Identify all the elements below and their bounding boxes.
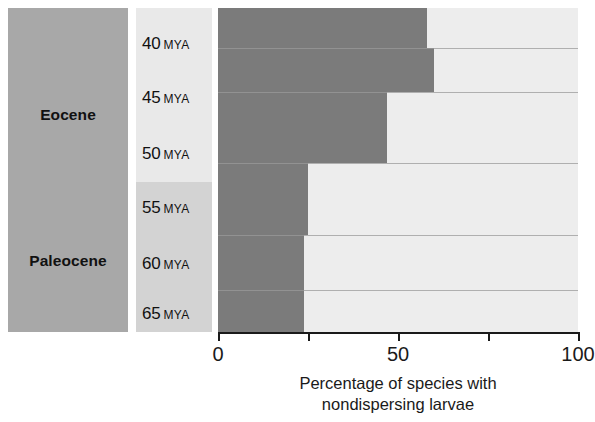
mya-label-50: 50MYA	[136, 144, 212, 164]
mya-label-40: 40MYA	[136, 34, 212, 54]
mya-label-60: 60MYA	[136, 254, 212, 274]
mya-label-55: 55MYA	[136, 198, 212, 218]
mya-value-40: 40	[142, 34, 161, 53]
x-axis-tick-label: 50	[387, 343, 409, 366]
mya-unit-50: MYA	[164, 148, 190, 162]
row-separator	[218, 290, 578, 291]
bar-fill	[218, 235, 304, 290]
mya-value-65: 65	[142, 304, 161, 323]
x-axis-tick	[218, 332, 220, 341]
bar-row	[218, 163, 578, 235]
bar-row	[218, 8, 578, 48]
mya-label-65: 65MYA	[136, 304, 212, 324]
mya-value-50: 50	[142, 144, 161, 163]
x-axis-title-line2: nondispersing larvae	[218, 394, 578, 415]
mya-value-55: 55	[142, 198, 161, 217]
x-axis-tick-label: 100	[561, 343, 594, 366]
bar-row	[218, 92, 578, 163]
bar-row	[218, 48, 578, 92]
bar-plot-area	[218, 8, 578, 332]
mya-label-column: 40MYA 45MYA 50MYA 55MYA 60MYA 65MYA	[136, 8, 212, 332]
bar-fill	[218, 48, 434, 92]
row-separator	[218, 92, 578, 93]
x-axis-tick	[308, 332, 310, 341]
mya-unit-55: MYA	[164, 202, 190, 216]
bar-fill	[218, 290, 304, 332]
bar-row	[218, 290, 578, 332]
row-separator	[218, 235, 578, 236]
x-axis-tick-label: 0	[212, 343, 223, 366]
epoch-label-eocene: Eocene	[8, 106, 128, 124]
x-axis-tick	[398, 332, 400, 341]
bar-fill	[218, 163, 308, 235]
x-axis-title-line1: Percentage of species with	[218, 373, 578, 394]
mya-unit-60: MYA	[164, 258, 190, 272]
x-axis-tick	[488, 332, 490, 341]
x-axis-tick	[578, 332, 580, 341]
mya-value-45: 45	[142, 88, 161, 107]
mya-unit-65: MYA	[164, 308, 190, 322]
mya-unit-45: MYA	[164, 92, 190, 106]
mya-value-60: 60	[142, 254, 161, 273]
epoch-column: Eocene Paleocene	[8, 8, 128, 332]
bar-fill	[218, 8, 427, 48]
bar-row	[218, 235, 578, 290]
row-separator	[218, 48, 578, 49]
row-separator	[218, 163, 578, 164]
epoch-label-paleocene: Paleocene	[8, 252, 128, 270]
x-axis-title: Percentage of species with nondispersing…	[218, 373, 578, 415]
mya-label-45: 45MYA	[136, 88, 212, 108]
epoch-block-eocene	[8, 8, 128, 182]
mya-unit-40: MYA	[164, 38, 190, 52]
bar-fill	[218, 92, 387, 163]
